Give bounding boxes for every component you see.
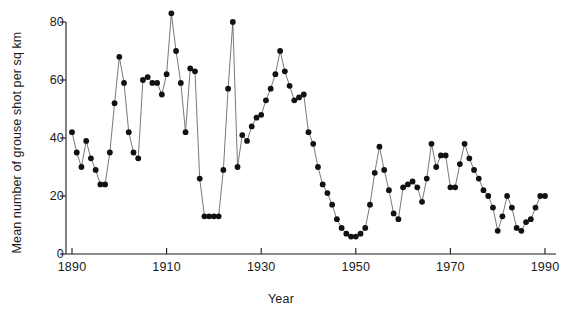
data-point xyxy=(225,86,231,92)
data-point xyxy=(154,80,160,86)
data-point xyxy=(381,167,387,173)
data-point xyxy=(533,205,539,211)
data-point xyxy=(230,19,236,25)
data-point xyxy=(358,231,364,237)
x-tick-label: 1930 xyxy=(247,260,276,274)
data-point xyxy=(107,150,113,156)
data-point xyxy=(116,54,122,60)
series-line xyxy=(72,13,545,236)
data-point xyxy=(391,211,397,217)
data-point xyxy=(287,83,293,89)
data-point xyxy=(476,176,482,182)
data-point xyxy=(429,141,435,147)
data-point xyxy=(419,199,425,205)
data-point xyxy=(272,71,278,77)
data-point xyxy=(159,92,165,98)
data-point xyxy=(485,193,491,199)
data-point xyxy=(466,155,472,161)
data-point xyxy=(315,164,321,170)
data-point xyxy=(320,182,326,188)
data-point xyxy=(173,48,179,54)
data-point xyxy=(145,74,151,80)
data-point xyxy=(79,164,85,170)
data-point xyxy=(301,92,307,98)
data-point xyxy=(504,193,510,199)
data-point xyxy=(362,225,368,231)
data-point xyxy=(443,153,449,159)
data-point xyxy=(183,129,189,135)
data-point xyxy=(178,80,184,86)
data-point xyxy=(244,138,250,144)
data-point xyxy=(433,164,439,170)
data-point xyxy=(112,100,118,106)
data-point xyxy=(268,86,274,92)
data-point xyxy=(69,129,75,135)
chart-figure: Mean number of grouse shot per sq km 020… xyxy=(0,0,562,323)
data-point xyxy=(452,184,458,190)
tick-marks xyxy=(60,22,545,254)
data-point xyxy=(216,213,222,219)
data-point xyxy=(542,193,548,199)
data-point xyxy=(306,129,312,135)
data-point xyxy=(83,138,89,144)
data-point xyxy=(102,182,108,188)
series-markers xyxy=(69,10,548,239)
data-point xyxy=(126,129,132,135)
data-point xyxy=(329,202,335,208)
data-point xyxy=(168,10,174,16)
data-point xyxy=(518,228,524,234)
data-point xyxy=(88,155,94,161)
data-point xyxy=(277,48,283,54)
data-point xyxy=(235,164,241,170)
data-point xyxy=(500,213,506,219)
x-tick-label: 1950 xyxy=(341,260,370,274)
x-tick-label: 1970 xyxy=(436,260,465,274)
data-point xyxy=(239,132,245,138)
data-point xyxy=(414,184,420,190)
data-point xyxy=(121,80,127,86)
data-point xyxy=(339,225,345,231)
data-point xyxy=(282,68,288,74)
data-point xyxy=(377,144,383,150)
data-point xyxy=(192,68,198,74)
data-point xyxy=(220,167,226,173)
data-point xyxy=(509,205,515,211)
data-point xyxy=(367,202,373,208)
data-point xyxy=(263,97,269,103)
data-point xyxy=(490,205,496,211)
data-point xyxy=(93,167,99,173)
data-point xyxy=(457,161,463,167)
data-point xyxy=(481,187,487,193)
data-point xyxy=(334,216,340,222)
data-point xyxy=(197,176,203,182)
data-point xyxy=(424,176,430,182)
data-point xyxy=(164,71,170,77)
x-tick-label: 1910 xyxy=(152,260,181,274)
data-point xyxy=(372,170,378,176)
data-point xyxy=(325,190,331,196)
data-point xyxy=(395,216,401,222)
data-point xyxy=(249,124,255,130)
data-point xyxy=(495,228,501,234)
plot-area xyxy=(0,0,562,323)
data-point xyxy=(258,112,264,118)
data-point xyxy=(135,155,141,161)
data-point xyxy=(131,150,137,156)
data-point xyxy=(462,141,468,147)
x-axis-title: Year xyxy=(0,292,562,306)
data-point xyxy=(528,216,534,222)
data-point xyxy=(386,187,392,193)
data-point xyxy=(74,150,80,156)
data-point xyxy=(310,141,316,147)
data-point xyxy=(410,179,416,185)
x-tick-label: 1890 xyxy=(58,260,87,274)
x-tick-label: 1990 xyxy=(531,260,560,274)
data-point xyxy=(471,167,477,173)
